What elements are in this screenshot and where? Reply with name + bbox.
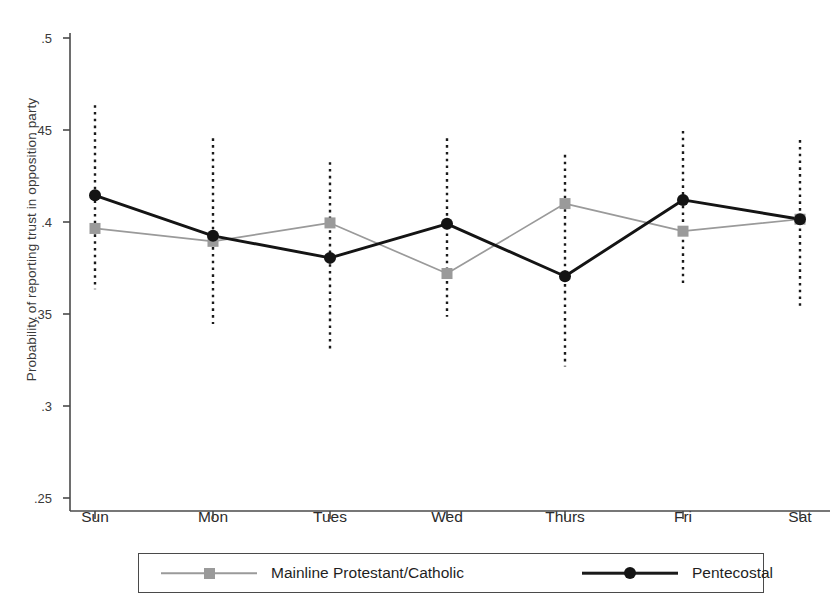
data-point-marker xyxy=(325,217,336,228)
data-point-marker xyxy=(678,226,689,237)
chart-legend: Mainline Protestant/Catholic Pentecostal xyxy=(138,553,764,593)
data-point-marker xyxy=(442,268,453,279)
legend-label-mainline: Mainline Protestant/Catholic xyxy=(271,564,464,582)
chart-figure: Probability of reporting trust in opposi… xyxy=(0,0,835,611)
data-point-marker xyxy=(207,230,219,242)
legend-swatch-mainline-icon xyxy=(161,565,257,581)
legend-entry-pentecostal: Pentecostal xyxy=(582,564,773,582)
data-point-marker xyxy=(89,189,101,201)
data-point-marker xyxy=(794,213,806,225)
data-point-marker xyxy=(324,252,336,264)
data-point-marker xyxy=(90,223,101,234)
legend-label-pentecostal: Pentecostal xyxy=(692,564,773,582)
data-point-marker xyxy=(441,218,453,230)
data-point-marker xyxy=(559,270,571,282)
plot-area xyxy=(0,0,835,611)
data-point-marker xyxy=(677,194,689,206)
legend-entry-mainline: Mainline Protestant/Catholic xyxy=(161,564,464,582)
legend-swatch-pentecostal-icon xyxy=(582,565,678,581)
data-point-marker xyxy=(560,198,571,209)
